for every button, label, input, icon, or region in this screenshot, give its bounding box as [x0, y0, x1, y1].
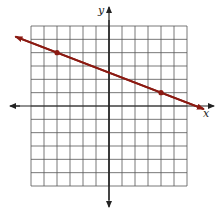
coordinate-plane: x y: [0, 0, 223, 218]
data-point: [54, 50, 59, 55]
axes: [10, 7, 214, 207]
x-axis-label: x: [203, 107, 210, 120]
data-point: [158, 90, 163, 95]
y-axis-label: y: [97, 4, 105, 17]
